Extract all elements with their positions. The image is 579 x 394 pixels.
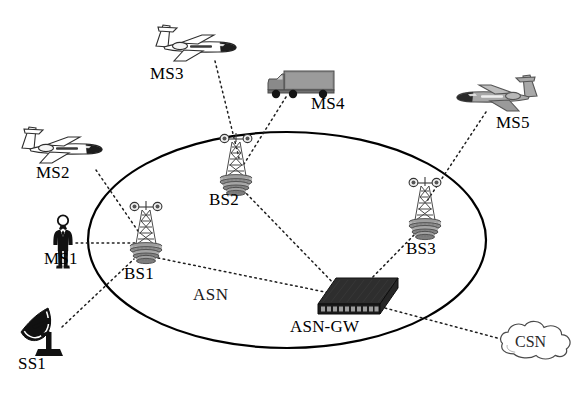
satellite-dish-icon [21, 308, 63, 356]
link-ms4-bs2 [244, 97, 286, 164]
link-ms5-bs3 [427, 112, 486, 201]
link-asngw-csn [370, 304, 516, 343]
node-label-asn-gw: ASN-GW [290, 318, 359, 335]
node-label-ms4: MS4 [311, 95, 345, 112]
cell-tower-icon [130, 201, 162, 264]
airplane-white-icon [22, 127, 102, 163]
node-label-ms2: MS2 [36, 164, 70, 181]
asn-region-label: ASN [193, 285, 229, 305]
airplane-gray-icon [457, 75, 537, 111]
node-label-bs1: BS1 [124, 265, 154, 282]
airplane-white-icon [156, 25, 236, 61]
cell-tower-icon [220, 133, 252, 196]
node-label-ms3: MS3 [150, 65, 184, 82]
node-label-bs3: BS3 [406, 240, 436, 257]
node-label-ms5: MS5 [496, 114, 530, 131]
link-bs1-asngw [158, 258, 330, 293]
node-label-ss1: SS1 [18, 355, 46, 372]
node-label-ms1: MS1 [44, 250, 78, 267]
node-label-bs2: BS2 [209, 191, 239, 208]
link-bs2-asngw [243, 190, 340, 290]
cell-tower-icon [409, 177, 441, 240]
network-diagram-canvas: MS2 MS3 MS4 MS5 MS1 SS1 BS1 BS2 BS3 ASN-… [0, 0, 579, 394]
link-ms3-bs2 [215, 61, 239, 158]
link-layer [62, 61, 516, 343]
node-label-csn: CSN [515, 333, 546, 351]
